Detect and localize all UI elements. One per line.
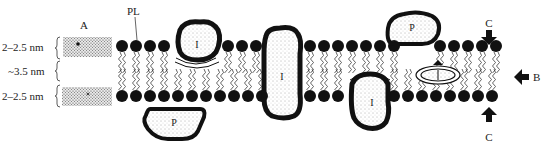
- brace-outer-icon: [55, 37, 60, 59]
- integral-1-label: I: [195, 39, 198, 50]
- integral-protein-4: [416, 60, 460, 84]
- peripheral-2-label: P: [409, 22, 415, 33]
- inset-a-label: A: [80, 19, 88, 31]
- arrow-c-top-label: C: [485, 17, 492, 29]
- arrow-c-bottom-label: C: [485, 131, 492, 143]
- pl-label: PL: [127, 5, 140, 17]
- arrow-left-icon: [514, 69, 529, 85]
- dimension-labels: 2–2.5 nm ~3.5 nm 2–2.5 nm: [2, 37, 60, 107]
- peripheral-protein-1: P: [144, 109, 204, 139]
- dimension-inner-label: 2–2.5 nm: [2, 90, 44, 102]
- membrane-diagram: 2–2.5 nm ~3.5 nm 2–2.5 nm A PL I P: [0, 0, 545, 153]
- peripheral-protein-2: P: [388, 12, 440, 44]
- brace-core-icon: [55, 61, 60, 81]
- inset-inner-layer: [62, 87, 112, 106]
- peripheral-1-label: P: [171, 117, 177, 128]
- dimension-outer-label: 2–2.5 nm: [2, 41, 44, 53]
- phospholipid-heads-top: [116, 40, 502, 52]
- arrows: C C B: [481, 17, 540, 143]
- phospholipid-label-group: PL: [127, 5, 140, 40]
- arrow-b-label: B: [533, 71, 540, 83]
- integral-3-label: I: [370, 97, 373, 108]
- integral-2-label: I: [280, 71, 283, 82]
- integral-protein-3: I: [350, 73, 390, 128]
- inset-outer-layer: [63, 37, 112, 57]
- integral-protein-1: I: [175, 22, 220, 68]
- dimension-core-label: ~3.5 nm: [8, 65, 45, 77]
- arrow-up-icon: [481, 107, 497, 122]
- phospholipid-heads-bottom: [116, 90, 498, 102]
- inset-a: A: [62, 19, 112, 106]
- brace-inner-icon: [55, 85, 60, 107]
- integral-protein-2: I: [264, 28, 301, 118]
